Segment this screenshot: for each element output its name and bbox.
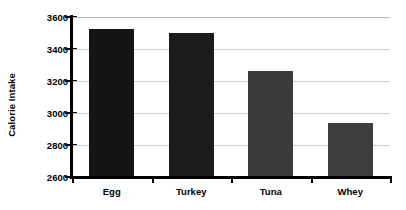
- y-axis-spine: [70, 15, 73, 179]
- plot-area: [72, 17, 390, 177]
- x-axis-label-egg: Egg: [103, 186, 121, 197]
- bar-turkey: [169, 33, 214, 177]
- bar-whey: [328, 123, 373, 177]
- x-axis-label-whey: Whey: [338, 186, 363, 197]
- x-axis-tick: [311, 176, 313, 183]
- y-axis-tick-labels: 260028003000320034003600: [22, 0, 68, 210]
- y-axis-title: Calorie Intake: [0, 0, 22, 210]
- gridline: [72, 17, 390, 18]
- y-axis-tick-label: 3600: [24, 12, 68, 23]
- x-axis-tick: [390, 176, 392, 183]
- x-axis-tick: [72, 176, 74, 183]
- y-axis-tick-label: 3000: [24, 108, 68, 119]
- y-axis-tick-label: 2800: [24, 140, 68, 151]
- y-axis-tick-label: 2600: [24, 172, 68, 183]
- bar-egg: [89, 29, 134, 177]
- x-axis-tick: [231, 176, 233, 183]
- x-axis-label-turkey: Turkey: [176, 186, 206, 197]
- bar-tuna: [248, 71, 293, 177]
- bar-chart: Calorie Intake 260028003000320034003600 …: [0, 0, 406, 210]
- x-axis-tick: [152, 176, 154, 183]
- x-axis-spine: [70, 176, 390, 179]
- x-axis-label-tuna: Tuna: [260, 186, 282, 197]
- y-axis-tick-label: 3200: [24, 76, 68, 87]
- y-axis-tick-label: 3400: [24, 44, 68, 55]
